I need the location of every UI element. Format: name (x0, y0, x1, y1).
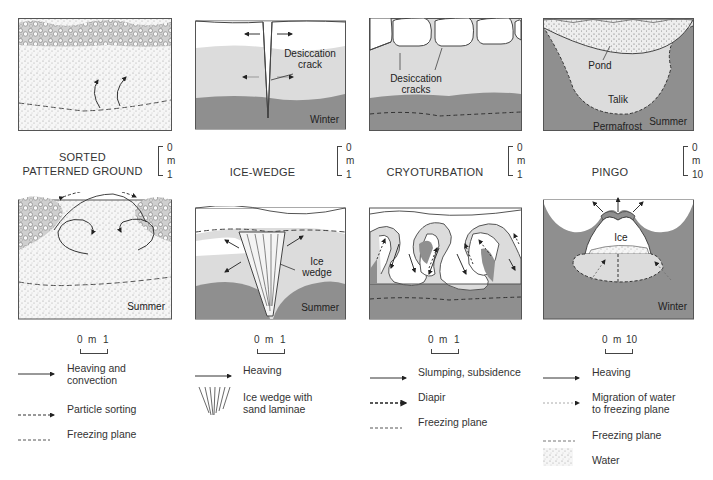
scale-unit: m (439, 334, 447, 345)
scale-unit: m (517, 155, 525, 167)
solid-arrow-icon (543, 368, 583, 386)
legend-heaving: Heaving (592, 366, 631, 378)
pingo-bottom-diagram: Ice Winter (543, 192, 695, 320)
sorted-ground-top-diagram (18, 18, 173, 132)
pingo-horizontal-scale: 0 m 10 (600, 334, 640, 360)
sorted-ground-bottom-diagram: Summer (18, 192, 173, 320)
legend-heaving: Heaving (243, 364, 282, 376)
scale-right-value: 1 (280, 334, 286, 345)
label-line-2: wedge (297, 267, 337, 278)
permafrost-label: Permafrost (585, 121, 650, 132)
legend-particle-sorting: Particle sorting (67, 403, 136, 415)
label-line-2: crack (275, 59, 345, 70)
season-label-summer: Summer (301, 302, 339, 313)
desiccation-crack-label: Desiccation crack (275, 48, 345, 70)
season-label-summer: Summer (127, 301, 165, 312)
scale-unit: m (692, 155, 700, 167)
desiccation-cracks-label: Desiccation cracks (381, 73, 451, 95)
scale-top-value: 0 (517, 142, 523, 154)
ice-wedge-label: Ice wedge (297, 256, 337, 278)
scale-unit: m (167, 155, 175, 167)
dotted-arrow-icon (543, 393, 583, 411)
solid-arrow-icon (195, 366, 235, 384)
legend-freezing-plane: Freezing plane (592, 429, 661, 441)
scale-left-value: 0 (254, 334, 260, 345)
legend-water: Water (592, 454, 620, 466)
scale-right-value: 1 (103, 334, 109, 345)
scale-top-value: 0 (346, 142, 352, 154)
legend-freezing-plane: Freezing plane (67, 428, 136, 440)
scale-unit: m (346, 155, 354, 167)
scale-unit: m (88, 334, 96, 345)
ice-wedge-vertical-scale: 0 m 1 (337, 142, 357, 182)
legend-text-line-1: Heaving and (67, 362, 126, 374)
scale-unit: m (613, 334, 621, 345)
cryoturbation-horizontal-scale: 0 m 1 (426, 334, 466, 360)
scale-bottom-value: 1 (167, 169, 173, 181)
pingo-top-diagram: Pond Talik Permafrost Summer (543, 18, 695, 132)
legend-text-line-1: Migration of water (592, 391, 675, 403)
solid-arrow-icon (18, 364, 58, 382)
scale-top-value: 0 (167, 142, 173, 154)
sorted-ground-winter-illustration (18, 18, 173, 132)
scale-unit: m (265, 334, 273, 345)
scale-bottom-value: 1 (346, 169, 352, 181)
label-line-1: Ice (297, 256, 337, 267)
cryoturbation-vertical-scale: 0 m 1 (508, 142, 528, 182)
ice-wedge-title: ICE-WEDGE (195, 165, 330, 179)
ice-wedge-bottom-diagram: Ice wedge Summer (195, 206, 347, 320)
pond-label: Pond (585, 60, 615, 71)
dashed-line-icon (370, 418, 410, 436)
solid-arrow-icon (370, 368, 410, 386)
talik-label: Talik (603, 94, 633, 105)
season-label-summer: Summer (649, 116, 687, 127)
pingo-summer-illustration (543, 18, 695, 132)
scale-left-value: 0 (428, 334, 434, 345)
title-line-1: SORTED (10, 150, 155, 164)
scale-left-value: 0 (602, 334, 608, 345)
sorted-ground-horizontal-scale: 0 m 1 (75, 334, 115, 360)
cryoturbation-top-diagram: Desiccation cracks (369, 18, 524, 132)
legend-text-line-2: to freezing plane (592, 403, 675, 415)
pingo-title: PINGO (560, 165, 660, 179)
label-line-1: Desiccation (381, 73, 451, 84)
scale-left-value: 0 (77, 334, 83, 345)
legend-ice-wedge-sand-laminae: Ice wedge with sand laminae (243, 391, 312, 415)
pingo-vertical-scale: 0 m 10 (683, 142, 709, 182)
scale-top-value: 0 (692, 142, 698, 154)
bold-dashed-arrow-icon (370, 393, 410, 411)
legend-text-line-2: sand laminae (243, 403, 312, 415)
legend-diapir: Diapir (418, 391, 445, 403)
legend-slumping-subsidence: Slumping, subsidence (418, 366, 521, 378)
ice-wedge-horizontal-scale: 0 m 1 (252, 334, 292, 360)
season-label-winter: Winter (310, 114, 339, 125)
scale-right-value: 10 (626, 334, 637, 345)
label-line-1: Desiccation (275, 48, 345, 59)
cryoturbation-bottom-diagram (369, 204, 524, 320)
scale-bottom-value: 1 (517, 169, 523, 181)
dashed-line-icon (18, 430, 58, 448)
dashed-arrow-icon (18, 405, 58, 423)
legend-text-line-1: Ice wedge with (243, 391, 312, 403)
legend-migration-of-water: Migration of water to freezing plane (592, 391, 675, 415)
ice-wedge-top-diagram: Desiccation crack Winter (195, 18, 347, 132)
legend-freezing-plane: Freezing plane (418, 416, 487, 428)
ice-wedge-laminae-icon (197, 385, 233, 421)
sorted-ground-vertical-scale: 0 m 1 (158, 142, 178, 182)
legend-heaving-convection: Heaving and convection (67, 362, 126, 386)
scale-bottom-value: 10 (692, 169, 703, 181)
sorted-ground-title: SORTED PATTERNED GROUND (10, 150, 155, 178)
legend-text-line-2: convection (67, 374, 126, 386)
cryoturbation-title: CRYOTURBATION (370, 165, 500, 179)
ice-label: Ice (611, 232, 631, 243)
stipple-water-icon (543, 448, 575, 470)
label-line-2: cracks (381, 84, 451, 95)
season-label-winter: Winter (658, 301, 687, 312)
cryoturbation-lower-illustration (369, 204, 524, 320)
scale-right-value: 1 (454, 334, 460, 345)
title-line-2: PATTERNED GROUND (10, 164, 155, 178)
dashed-line-icon (543, 431, 583, 449)
